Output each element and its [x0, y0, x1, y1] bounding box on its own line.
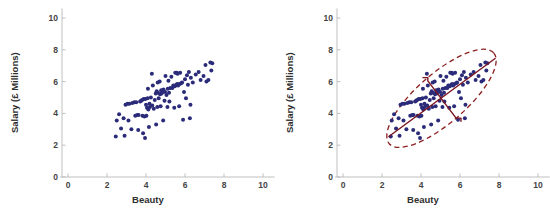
data-point: [191, 80, 195, 84]
major-axis-line: [389, 59, 495, 137]
data-point: [163, 99, 167, 103]
data-point: [392, 112, 396, 116]
data-point: [186, 83, 190, 87]
y-tick-label: 10: [324, 13, 334, 23]
x-tick-label: 8: [222, 180, 227, 190]
data-point: [425, 72, 429, 76]
data-point: [421, 96, 425, 100]
data-point: [166, 79, 170, 83]
data-point: [129, 127, 133, 131]
data-point: [146, 87, 150, 91]
plot-left-content: 02468100246810BeautySalary (£ Millions): [9, 8, 275, 205]
data-point: [184, 96, 188, 100]
data-point: [167, 99, 171, 103]
data-point: [167, 91, 171, 95]
data-point: [426, 84, 430, 88]
data-point: [159, 104, 163, 108]
data-point: [187, 70, 191, 74]
x-tick-label: 4: [144, 180, 149, 190]
x-tick-label: 8: [497, 180, 502, 190]
y-tick-label: 6: [328, 77, 333, 87]
data-point: [424, 96, 428, 100]
data-point: [123, 134, 127, 138]
data-point: [149, 96, 153, 100]
data-point: [440, 105, 444, 109]
data-point: [126, 119, 130, 123]
data-point: [169, 75, 173, 79]
data-point: [183, 77, 187, 81]
data-point: [439, 74, 443, 78]
data-point: [155, 105, 159, 109]
data-point: [463, 116, 467, 120]
data-point: [115, 119, 119, 123]
data-point: [457, 90, 461, 94]
data-point: [177, 104, 181, 108]
data-point: [462, 70, 466, 74]
data-point: [180, 80, 184, 84]
data-point: [466, 80, 470, 84]
data-point: [428, 98, 432, 102]
data-point: [158, 80, 162, 84]
data-point: [146, 96, 150, 100]
figure-scatter-pair: 02468100246810BeautySalary (£ Millions) …: [0, 0, 550, 215]
data-point: [182, 90, 186, 94]
data-point: [401, 119, 405, 123]
data-point: [444, 75, 448, 79]
data-point: [463, 103, 467, 107]
data-point: [433, 80, 437, 84]
data-point: [165, 105, 169, 109]
y-tick-label: 2: [328, 140, 333, 150]
x-tick-label: 2: [380, 180, 385, 190]
data-point: [441, 79, 445, 83]
x-tick-label: 4: [419, 180, 424, 190]
data-point: [398, 134, 402, 138]
data-point: [209, 68, 213, 72]
y-tick-label: 0: [328, 172, 333, 182]
data-point: [477, 74, 481, 78]
data-point: [436, 119, 440, 123]
plot-right-content: 02468100246810BeautySalary (£ Millions): [284, 8, 550, 205]
data-point: [453, 71, 457, 75]
data-point: [147, 125, 151, 129]
y-tick-label: 2: [53, 140, 58, 150]
y-tick-label: 10: [49, 13, 59, 23]
data-point: [210, 61, 214, 65]
x-tick-label: 10: [533, 180, 543, 190]
data-point: [134, 100, 138, 104]
data-point: [153, 98, 157, 102]
data-point: [157, 96, 161, 100]
x-tick-label: 2: [105, 180, 110, 190]
data-point: [161, 119, 165, 123]
x-axis-title: Beauty: [132, 194, 164, 205]
data-point: [434, 104, 438, 108]
scatter-plot-left-svg: 02468100246810BeautySalary (£ Millions): [0, 0, 275, 215]
data-point: [172, 106, 176, 110]
y-tick-label: 8: [328, 45, 333, 55]
data-point: [151, 84, 155, 88]
data-point-group: [114, 61, 215, 141]
data-point: [452, 104, 456, 108]
data-point: [429, 123, 433, 127]
data-point: [181, 118, 185, 122]
data-point: [474, 78, 478, 82]
data-point: [421, 87, 425, 91]
y-tick-label: 4: [53, 108, 58, 118]
data-point: [409, 100, 413, 104]
x-axis-title: Beauty: [407, 194, 439, 205]
data-point: [117, 112, 121, 116]
data-point: [404, 127, 408, 131]
data-point: [397, 116, 401, 120]
data-point: [178, 71, 182, 75]
data-point: [202, 74, 206, 78]
data-point: [189, 76, 193, 80]
data-point: [418, 136, 422, 140]
data-point: [150, 72, 154, 76]
data-point: [114, 134, 118, 138]
data-point: [422, 125, 426, 129]
data-point: [459, 96, 463, 100]
y-axis-title: Salary (£ Millions): [9, 52, 20, 133]
data-point: [458, 77, 462, 81]
data-point: [137, 113, 141, 117]
data-point: [416, 131, 420, 135]
x-tick-label: 6: [183, 180, 188, 190]
